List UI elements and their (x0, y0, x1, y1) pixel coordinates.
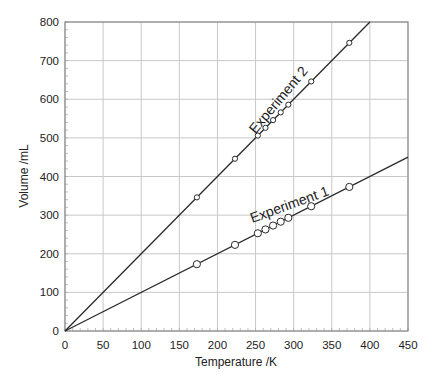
x-tick-label: 400 (360, 339, 379, 351)
data-point (285, 214, 292, 221)
x-tick-label: 50 (97, 339, 110, 351)
data-point (262, 226, 269, 233)
x-tick-label: 250 (246, 339, 265, 351)
chart: 050100150200250300350400450 010020030040… (0, 0, 438, 387)
x-tick-label: 150 (170, 339, 189, 351)
y-tick-label: 700 (40, 55, 59, 67)
series-experiment-1 (65, 157, 408, 331)
y-tick-labels: 0100200300400500600700800 (40, 16, 59, 337)
data-point (346, 183, 353, 190)
grid-lines (65, 22, 408, 331)
x-tick-label: 350 (322, 339, 341, 351)
y-tick-label: 100 (40, 286, 59, 298)
data-point (269, 222, 276, 229)
x-tick-label: 0 (62, 339, 68, 351)
y-tick-label: 200 (40, 248, 59, 260)
y-tick-label: 0 (53, 325, 59, 337)
y-tick-label: 500 (40, 132, 59, 144)
data-point (309, 79, 314, 84)
data-point (347, 40, 352, 45)
x-tick-label: 450 (398, 339, 417, 351)
y-tick-label: 800 (40, 16, 59, 28)
data-point (193, 261, 200, 268)
data-point (231, 241, 238, 248)
x-tick-label: 300 (284, 339, 303, 351)
data-point (286, 102, 291, 107)
data-point (277, 218, 284, 225)
data-point (232, 156, 237, 161)
x-tick-label: 200 (208, 339, 227, 351)
x-axis-label: Temperature /K (195, 355, 277, 369)
y-tick-label: 300 (40, 209, 59, 221)
data-point (194, 195, 199, 200)
y-axis-label: Volume /mL (17, 144, 31, 208)
data-point (254, 230, 261, 237)
y-tick-label: 400 (40, 171, 59, 183)
x-tick-label: 100 (132, 339, 151, 351)
y-tick-label: 600 (40, 93, 59, 105)
x-tick-labels: 050100150200250300350400450 (62, 339, 418, 351)
